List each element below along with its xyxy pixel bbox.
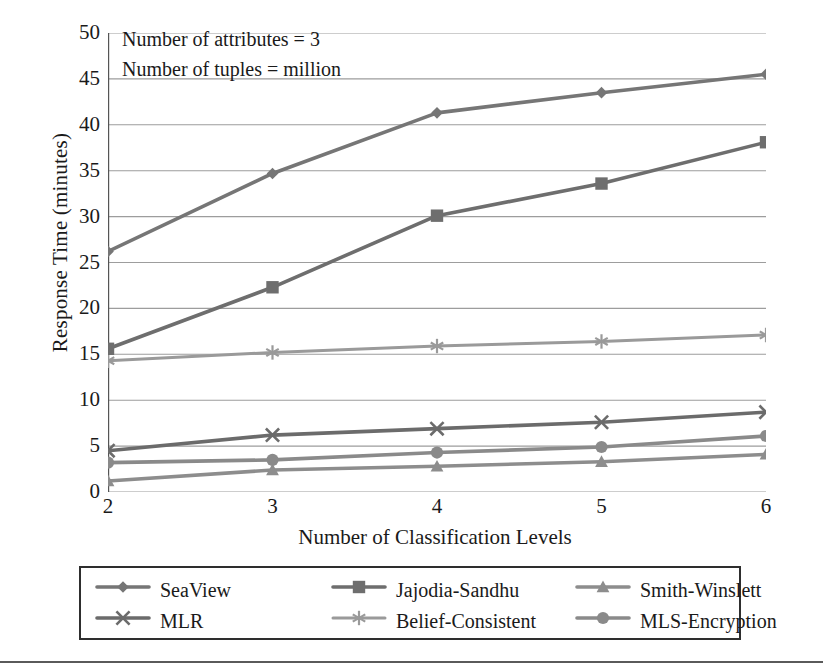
data-point-marker (760, 136, 766, 148)
legend-key-square-icon (331, 577, 387, 602)
series-line (108, 74, 766, 251)
legend-item-smith-winslett[interactable]: Smith-Winslett (575, 577, 777, 602)
legend-item-mlr[interactable]: MLR (95, 608, 331, 633)
data-point-marker (597, 612, 609, 624)
legend-label-smith-winslett: Smith-Winslett (640, 580, 761, 600)
series-jajodia-sandhu (108, 136, 766, 355)
series-seaview (108, 69, 766, 258)
legend-key-x-icon-svg (95, 608, 151, 628)
data-point-marker (266, 454, 278, 466)
series-line (108, 412, 766, 451)
data-point-marker (431, 209, 443, 221)
data-point-marker (108, 343, 114, 355)
legend-key-diamond-icon (95, 577, 151, 602)
data-point-marker (595, 441, 607, 453)
plot-area (108, 33, 766, 492)
y-tick-label-50: 50 (54, 22, 100, 43)
chart-legend: SeaView Jajodia-Sandhu Smith-Winslett ML… (79, 566, 741, 640)
x-axis-title: Number of Classification Levels (95, 525, 775, 550)
legend-key-circle-icon-svg (575, 608, 631, 628)
legend-label-mls-encryption: MLS-Encryption (640, 611, 777, 631)
annotation-attributes: Number of attributes = 3 (122, 28, 320, 51)
legend-grid: SeaView Jajodia-Sandhu Smith-Winslett ML… (81, 574, 739, 636)
x-tick-label-6: 6 (746, 496, 786, 517)
legend-label-jajodia-sandhu: Jajodia-Sandhu (396, 580, 519, 600)
legend-key-x-icon (95, 608, 151, 633)
legend-item-seaview[interactable]: SeaView (95, 577, 331, 602)
legend-key-triangle-icon (575, 577, 631, 602)
x-tick-label-5: 5 (582, 496, 622, 517)
page-bottom-rule (0, 661, 823, 663)
legend-item-belief-consistent[interactable]: Belief-Consistent (331, 608, 575, 633)
chart-figure: Response Time (minutes) 0510152025303540… (0, 0, 823, 669)
data-point-marker (760, 430, 766, 442)
legend-key-square-icon-svg (331, 577, 387, 597)
x-tick-label-3: 3 (253, 496, 293, 517)
legend-key-asterisk-icon (331, 608, 387, 633)
y-tick-label-25: 25 (54, 252, 100, 273)
legend-key-circle-icon (575, 608, 631, 633)
y-tick-label-40: 40 (54, 114, 100, 135)
legend-item-mls-encryption[interactable]: MLS-Encryption (575, 608, 777, 633)
legend-label-belief-consistent: Belief-Consistent (396, 611, 536, 631)
plot-svg (108, 33, 766, 492)
data-point-marker (431, 107, 443, 119)
data-point-marker (353, 581, 365, 593)
series-belief-consistent (108, 328, 766, 368)
x-axis-tick-labels: 23456 (108, 496, 766, 524)
legend-key-diamond-icon-svg (95, 577, 151, 597)
y-axis-tick-labels: 05101520253035404550 (48, 33, 100, 492)
data-point-marker (117, 581, 129, 593)
data-point-marker (108, 457, 114, 469)
series-line (108, 142, 766, 349)
y-tick-label-30: 30 (54, 206, 100, 227)
y-tick-label-5: 5 (54, 435, 100, 456)
x-tick-label-4: 4 (417, 496, 457, 517)
y-tick-label-20: 20 (54, 297, 100, 318)
data-point-marker (595, 177, 607, 189)
legend-label-mlr: MLR (160, 611, 203, 631)
data-point-marker (266, 281, 278, 293)
data-point-marker (596, 87, 608, 99)
y-tick-label-45: 45 (54, 68, 100, 89)
x-tick-label-2: 2 (88, 496, 128, 517)
legend-label-seaview: SeaView (160, 580, 231, 600)
data-point-marker (431, 446, 443, 458)
legend-key-asterisk-icon-svg (331, 608, 387, 628)
y-tick-label-15: 15 (54, 343, 100, 364)
legend-key-triangle-icon-svg (575, 577, 631, 597)
data-point-marker (267, 168, 279, 180)
y-tick-label-35: 35 (54, 160, 100, 181)
annotation-tuples: Number of tuples = million (122, 58, 341, 81)
y-tick-label-10: 10 (54, 389, 100, 410)
legend-item-jajodia-sandhu[interactable]: Jajodia-Sandhu (331, 577, 575, 602)
